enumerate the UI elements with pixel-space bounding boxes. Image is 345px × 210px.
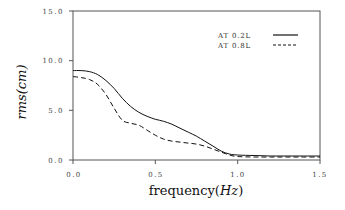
y-tick-label: 15.0 (42, 8, 64, 16)
y-tick-label: 10.0 (42, 57, 64, 65)
series-line-at-0.2L (73, 71, 320, 157)
x-tick-label: 0.0 (66, 171, 82, 179)
x-axis-title: frequency(Hz) (149, 183, 243, 198)
x-tick-label: 0.5 (148, 171, 164, 179)
legend-label: AT 0.8L (217, 42, 251, 50)
legend-label: AT 0.2L (217, 32, 251, 40)
y-tick-label: 5.0 (48, 107, 64, 115)
x-tick-label: 1.5 (312, 171, 328, 179)
y-axis-title: rms(cm) (14, 65, 29, 120)
y-axis: 0.0 5.0 10.0 15.0 (42, 8, 73, 165)
plot-frame (73, 11, 320, 160)
x-axis: 0.0 0.5 1.0 1.5 (66, 160, 328, 179)
x-tick-label: 1.0 (230, 171, 246, 179)
legend: AT 0.2L AT 0.8L (217, 32, 298, 50)
series-line-at-0.8L (73, 77, 320, 157)
line-chart: 0.0 5.0 10.0 15.0 0.0 0.5 1.0 1.5 freque… (0, 0, 345, 210)
y-tick-label: 0.0 (48, 157, 64, 165)
